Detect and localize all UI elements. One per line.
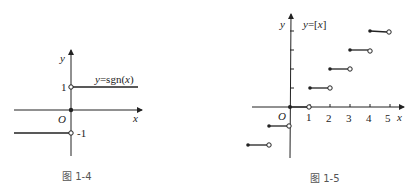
open-point-neg1 xyxy=(69,131,73,135)
x-tick-label-2: 2 xyxy=(326,112,332,124)
x-tick-label-4: 4 xyxy=(366,112,372,124)
function-label: y=sgn(x) xyxy=(94,73,134,86)
x-axis-label: x xyxy=(396,111,402,123)
closed-point-origin xyxy=(69,108,73,112)
tick-label-1: 1 xyxy=(61,81,67,93)
x-tick-label-3: 3 xyxy=(346,112,352,124)
tick-label-neg1: -1 xyxy=(77,127,86,139)
y-axis-label: y xyxy=(59,52,65,64)
caption-fig-1-4: 图 1-4 xyxy=(62,171,92,182)
y-axis-label: y xyxy=(279,18,285,30)
origin-label: O xyxy=(278,110,286,122)
figure-canvas: y x O 1 -1 y=sgn(x) 图 1-4 xyxy=(0,0,419,193)
step-segments xyxy=(246,29,391,147)
y-axis xyxy=(290,14,291,158)
x-tick-label-1: 1 xyxy=(306,111,312,123)
function-label: y=[x] xyxy=(302,18,326,30)
floor-chart: y x O 1 2 3 4 5 y=[x] 图 1-5 xyxy=(246,14,404,184)
x-tick-label-5: 5 xyxy=(385,112,391,124)
caption-fig-1-5: 图 1-5 xyxy=(310,173,340,184)
x-axis-label: x xyxy=(132,112,138,124)
sgn-chart: y x O 1 -1 y=sgn(x) 图 1-4 xyxy=(14,50,142,182)
open-point-1 xyxy=(69,85,73,89)
origin-label: O xyxy=(58,113,66,125)
